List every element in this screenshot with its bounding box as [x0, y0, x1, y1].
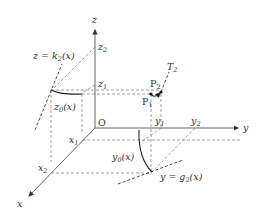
p1-label: P1 [142, 96, 153, 109]
z2-label: z2 [97, 41, 107, 54]
z-k2-line [35, 64, 62, 130]
z-k2-label: z = k2(x) [32, 50, 75, 63]
y0-label: y0(x) [111, 151, 135, 164]
y2-label: y2 [190, 115, 201, 128]
point-p1 [149, 92, 152, 95]
dashed-z1-diagonal [82, 85, 95, 93]
z0-label: z0(x) [53, 101, 76, 114]
origin-label: O [98, 117, 106, 128]
y0-curve [139, 130, 152, 172]
z-axis-label: z [91, 14, 98, 25]
coordinate-diagram: z y x O z2 z1 y1 y2 x1 x2 P2 P1 T2 z = k… [0, 0, 264, 221]
y1-label: y1 [154, 115, 165, 128]
x-axis-label: x [17, 198, 23, 209]
y-g2-label: y = g2(x) [159, 171, 203, 184]
z1-label: z1 [97, 78, 107, 91]
p2-label: P2 [150, 78, 161, 91]
dashed-y1-diagonal [140, 128, 161, 143]
z0-curve [51, 90, 82, 94]
y-axis-label: y [242, 122, 249, 133]
tangent-t2-line [161, 72, 169, 92]
x1-label: x1 [69, 134, 79, 147]
dashed-y2-diagonal [152, 128, 195, 172]
x2-label: x2 [38, 162, 48, 175]
